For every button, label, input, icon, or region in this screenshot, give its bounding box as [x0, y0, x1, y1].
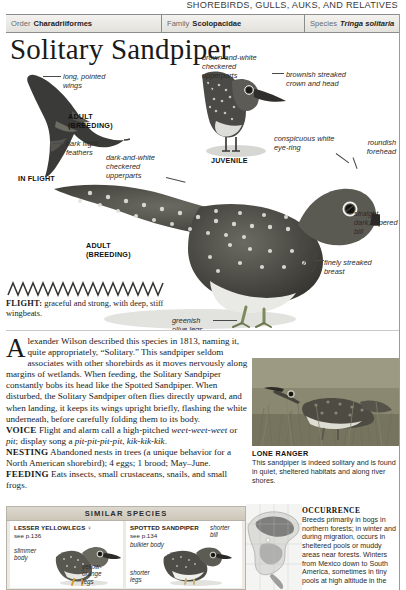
- anno-finely-streaked-breast: finely streaked breast: [324, 258, 386, 276]
- voice-text-b: or: [227, 425, 237, 435]
- voice-text-e: .: [165, 436, 167, 446]
- leader-finely-streaked-breast: [314, 260, 324, 261]
- sim-anno-yellow-orange-legs: yellow-orange legs: [82, 563, 112, 585]
- sim-anno-shorter-legs: shorter legs: [130, 569, 158, 584]
- voice-text-a: Flight and alarm call a high-pitched: [37, 425, 172, 435]
- range-map: [246, 504, 302, 590]
- flight-description: FLIGHT: graceful and strong, with deep, …: [6, 299, 186, 320]
- species-value: Tringa solitaria: [340, 19, 394, 28]
- leader-greenish-olive-legs: [213, 320, 237, 321]
- range-map-graphic: [246, 504, 302, 590]
- lead-paragraph: Alexander Wilson described this species …: [6, 336, 250, 425]
- female-symbol-icon: ♀: [87, 524, 92, 531]
- photo-caption-text: This sandpiper is indeed solitary and is…: [252, 459, 400, 485]
- voice-label: VOICE: [6, 425, 37, 435]
- similar-species-page-ref[interactable]: see p.136: [14, 532, 41, 539]
- nesting-section: NESTING Abandoned nests in trees (a uniq…: [6, 447, 250, 469]
- voice-call-b: pit: [6, 436, 16, 446]
- voice-text-c: ; display song a: [16, 436, 75, 446]
- taxonomy-order-cell: Order Charadriiformes: [6, 15, 162, 32]
- occurrence-heading: OCCURRENCE: [302, 506, 360, 515]
- running-head: SHOREBIRDS, GULLS, AUKS, AND RELATIVES: [0, 0, 398, 10]
- similar-species-page-ref[interactable]: see p.134: [130, 532, 157, 539]
- lead-paragraph-text: lexander Wilson described this species i…: [6, 336, 247, 424]
- species-account-text: Alexander Wilson described this species …: [6, 336, 250, 491]
- sim-anno-shorter-bill: shorter bill: [210, 524, 238, 539]
- nesting-label: NESTING: [6, 447, 48, 457]
- anno-conspicuous-white-eye-ring: conspicuous white eye-ring: [274, 134, 336, 152]
- sim-anno-slimmer-body: slimmer body: [14, 547, 48, 562]
- species-label: Species: [310, 19, 337, 28]
- drop-cap: A: [6, 337, 28, 359]
- similar-species-box: SIMILAR SPECIES LESSER YELLOWLEGS ♀ see …: [6, 506, 246, 590]
- page-right-rule: [399, 14, 400, 590]
- caption-adult-breeding-flight: ADULT (BREEDING): [68, 113, 113, 130]
- voice-section: VOICE Flight and alarm call a high-pitch…: [6, 425, 250, 447]
- leader-long-pointed-wings: [43, 76, 61, 77]
- occurrence-text: Breeds primarily in bogs in northern for…: [302, 516, 400, 586]
- caption-adult-breeding-main: ADULT (BREEDING): [86, 242, 131, 259]
- flight-label: FLIGHT:: [6, 299, 42, 308]
- flight-pattern-block: FLIGHT: graceful and strong, with deep, …: [6, 281, 186, 320]
- leader-brownish-streaked-crown: [272, 73, 284, 74]
- similar-species-item-spotted-sandpiper[interactable]: SPOTTED SANDPIPER see p.134 bulkier body…: [126, 521, 242, 588]
- habitat-photo-graphic: [252, 358, 400, 446]
- habitat-photo: [252, 358, 400, 446]
- feeding-section: FEEDING Eats insects, small crustaceans,…: [6, 469, 250, 491]
- order-value: Charadriiformes: [33, 19, 92, 28]
- anno-roundish-forehead: roundish forehead: [346, 138, 396, 156]
- similar-species-name: LESSER YELLOWLEGS ♀: [14, 524, 92, 531]
- anno-brown-and-white-checkered-upperparts: brown-and-white checkered upperparts: [202, 53, 268, 81]
- plate-divider-rule: [6, 330, 400, 331]
- family-value: Scolopacidae: [192, 19, 241, 28]
- flight-wingbeat-zigzag-icon: [6, 281, 166, 297]
- similar-species-header: SIMILAR SPECIES: [7, 507, 245, 521]
- spotted-sandpiper-illustration: [158, 541, 234, 587]
- voice-call-c: pit-pit-pit-pit: [75, 436, 123, 446]
- order-label: Order: [11, 19, 30, 28]
- photo-caption-title: LONE RANGER: [252, 449, 400, 458]
- taxonomy-family-cell: Family Scolopacidae: [162, 15, 305, 32]
- sim-anno-bulkier-body: bulkier body: [130, 541, 166, 548]
- anno-dark-and-white-checkered-upperparts: dark-and-white checkered upperparts: [106, 153, 172, 181]
- taxonomy-species-cell: Species Tringa solitaria: [305, 15, 400, 32]
- voice-call-a: weet-weet-weet: [171, 425, 227, 435]
- anno-long-pointed-wings: long, pointed wings: [63, 72, 125, 90]
- similar-species-item-lesser-yellowlegs[interactable]: LESSER YELLOWLEGS ♀ see p.136 slimmer bo…: [10, 521, 123, 588]
- habitat-photo-block: LONE RANGER This sandpiper is indeed sol…: [252, 358, 400, 485]
- caption-line-2: (BREEDING): [68, 122, 113, 131]
- family-label: Family: [167, 19, 189, 28]
- anno-brownish-streaked-crown-and-head: brownish streaked crown and head: [286, 70, 358, 88]
- anno-straight-dark-tapered-bill: straight, dark, tapered bill: [354, 209, 398, 237]
- similar-species-name: SPOTTED SANDPIPER: [130, 524, 199, 531]
- voice-call-d: kik-kik-kik: [127, 436, 165, 446]
- feeding-label: FEEDING: [6, 469, 49, 479]
